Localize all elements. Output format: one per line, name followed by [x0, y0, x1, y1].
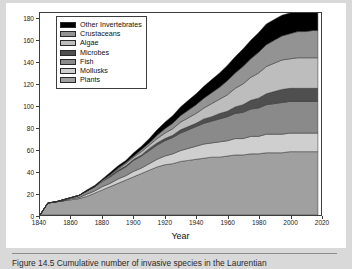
legend-swatch-icon [60, 50, 76, 56]
legend-item-microbes[interactable]: Microbes [60, 48, 142, 57]
figure-caption: Figure 14.5 Cumulative number of invasiv… [12, 258, 340, 268]
x-tick-label: 2000 [283, 219, 297, 226]
legend-swatch-icon [60, 77, 76, 83]
legend-item-fish[interactable]: Fish [60, 57, 142, 66]
y-tick-label: 140 [6, 58, 34, 65]
y-tick-label: 0 [6, 213, 34, 220]
legend-label: Microbes [80, 49, 109, 57]
caption-divider [12, 253, 337, 254]
legend-swatch-icon [60, 40, 76, 46]
legend-item-other-invertebrates[interactable]: Other Invertebrates [60, 20, 142, 29]
legend-swatch-icon [60, 68, 76, 74]
chart-legend: Other InvertebratesCrustaceansAlgaeMicro… [56, 16, 147, 89]
x-tick-label: 1880 [95, 219, 109, 226]
y-tick-label: 120 [6, 80, 34, 87]
legend-item-mollusks[interactable]: Mollusks [60, 66, 142, 75]
figure-page: Cumulative number of invasive species 02… [0, 0, 352, 269]
y-tick-label: 80 [6, 124, 34, 131]
y-tick-label: 180 [6, 14, 34, 21]
x-tick-label: 1980 [252, 219, 266, 226]
legend-label: Algae [80, 39, 98, 47]
legend-item-plants[interactable]: Plants [60, 76, 142, 85]
legend-item-crustaceans[interactable]: Crustaceans [60, 29, 142, 38]
y-tick-label: 40 [6, 168, 34, 175]
y-tick-label: 20 [6, 190, 34, 197]
legend-swatch-icon [60, 59, 76, 65]
y-tick-label: 100 [6, 102, 34, 109]
x-tick-label: 1960 [220, 219, 234, 226]
x-tick-label: 1920 [158, 219, 172, 226]
y-tick-label: 160 [6, 36, 34, 43]
legend-label: Crustaceans [80, 30, 120, 38]
x-axis-title: Year [39, 231, 322, 241]
plot-wrapper: Cumulative number of invasive species 02… [6, 3, 346, 248]
legend-swatch-icon [60, 22, 76, 28]
x-tick-label: 2020 [315, 219, 329, 226]
legend-label: Mollusks [80, 67, 108, 75]
figure-panel: Cumulative number of invasive species 02… [6, 3, 346, 248]
x-tick-label: 1860 [63, 219, 77, 226]
legend-label: Other Invertebrates [80, 21, 142, 29]
legend-label: Plants [80, 76, 100, 84]
legend-item-algae[interactable]: Algae [60, 39, 142, 48]
x-tick-label: 1900 [126, 219, 140, 226]
legend-label: Fish [80, 58, 94, 66]
x-tick-label: 1840 [32, 219, 46, 226]
legend-swatch-icon [60, 31, 76, 37]
x-tick-label: 1940 [189, 219, 203, 226]
y-tick-label: 60 [6, 146, 34, 153]
